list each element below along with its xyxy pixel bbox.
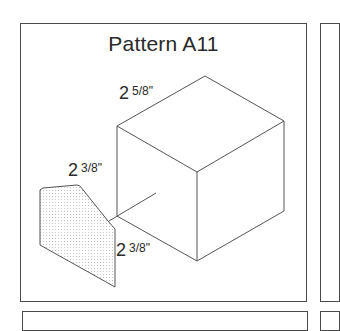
adjacent-pattern-frame-below-right [320, 311, 340, 331]
hidden-edge-line [109, 193, 156, 221]
dimension-depth: 23/8" [116, 240, 150, 261]
shaded-piece [40, 185, 115, 287]
dimension-height: 23/8" [68, 160, 102, 181]
dimension-top-edge: 25/8" [119, 83, 153, 104]
adjacent-pattern-frame-right [320, 23, 340, 302]
